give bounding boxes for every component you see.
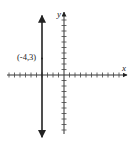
series xyxy=(41,16,43,138)
coordinate-plane: x y (-4,3) xyxy=(0,0,137,141)
x-axis-label: x xyxy=(121,63,126,73)
y-axis-label: y xyxy=(56,9,61,19)
point-label: (-4,3) xyxy=(17,52,36,62)
axes xyxy=(7,12,127,134)
point-marker xyxy=(41,58,43,60)
